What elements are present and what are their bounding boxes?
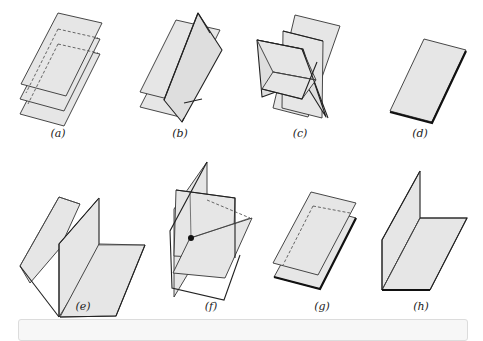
- label-d: (d): [412, 127, 428, 140]
- figure-e: [20, 197, 145, 317]
- caption-box: [18, 319, 468, 341]
- intersection-point: [188, 235, 194, 241]
- label-g: (g): [314, 300, 330, 313]
- figure-h: [382, 171, 467, 290]
- label-f: (f): [205, 300, 218, 313]
- label-b: (b): [172, 127, 188, 140]
- label-a: (a): [50, 127, 65, 140]
- figure-a: [20, 13, 102, 126]
- figure-c: [257, 15, 340, 118]
- figure-f: [170, 162, 252, 300]
- figure-g: [273, 192, 356, 289]
- label-h: (h): [413, 300, 429, 313]
- label-e: (e): [75, 300, 90, 313]
- label-c: (c): [293, 127, 308, 140]
- figure-b: [140, 13, 222, 122]
- figure-d: [390, 39, 466, 123]
